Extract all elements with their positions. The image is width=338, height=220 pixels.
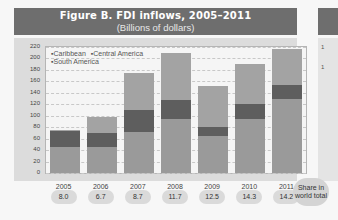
y-tick-label: 120 bbox=[14, 100, 40, 106]
bar-2005 bbox=[50, 129, 80, 173]
bar-segment-caribbean bbox=[272, 49, 302, 86]
x-tick-label: 2009 bbox=[197, 183, 227, 190]
x-tick-label: 2008 bbox=[160, 183, 190, 190]
gridline bbox=[46, 47, 306, 48]
bar-2006 bbox=[87, 117, 117, 173]
gridline bbox=[46, 173, 306, 174]
x-tick-label: 2005 bbox=[49, 183, 79, 190]
chart-subtitle: (Billions of dollars) bbox=[14, 22, 297, 33]
share-value-badge: 8.0 bbox=[51, 190, 77, 204]
share-value-badge: 14.3 bbox=[236, 190, 262, 204]
bar-segment-south-america bbox=[161, 119, 191, 173]
legend-item-central-america: ▪Central America bbox=[91, 50, 143, 58]
bar-segment-south-america bbox=[198, 136, 228, 173]
bar-2008 bbox=[161, 53, 191, 173]
adjacent-figure-title-bar bbox=[318, 8, 338, 35]
bar-segment-south-america bbox=[235, 119, 265, 173]
y-tick-label: 180 bbox=[14, 66, 40, 72]
y-tick-label: 80 bbox=[14, 123, 40, 129]
x-tick-label: 2010 bbox=[234, 183, 264, 190]
bar-segment-central-america bbox=[124, 110, 154, 132]
legend-item-caribbean: ▪Caribbean bbox=[51, 50, 86, 58]
y-tick-label: 140 bbox=[14, 89, 40, 95]
bar-segment-south-america bbox=[272, 99, 302, 173]
bar-segment-caribbean bbox=[124, 73, 154, 110]
bar-segment-central-america bbox=[87, 133, 117, 147]
x-tick-label: 2006 bbox=[86, 183, 116, 190]
bar-segment-central-america bbox=[50, 131, 80, 147]
share-value-badge: 6.7 bbox=[88, 190, 114, 204]
bar-2009 bbox=[198, 86, 228, 173]
bar-segment-caribbean bbox=[198, 86, 228, 127]
x-tick-label: 2007 bbox=[123, 183, 153, 190]
bar-2010 bbox=[235, 64, 265, 173]
y-tick-label: 60 bbox=[14, 135, 40, 141]
share-value-badge: 11.7 bbox=[162, 190, 188, 204]
chart-title-bar: Figure B. FDI inflows, 2005–2011 (Billio… bbox=[14, 8, 297, 35]
bar-segment-central-america bbox=[235, 104, 265, 118]
bar-segment-south-america bbox=[124, 132, 154, 173]
y-tick-label: 100 bbox=[14, 112, 40, 118]
bar-segment-south-america bbox=[87, 147, 117, 173]
share-in-world-total-label: Share in world total bbox=[293, 178, 329, 206]
y-tick-label: 20 bbox=[14, 158, 40, 164]
bar-2011 bbox=[272, 49, 302, 173]
y-tick-label: 200 bbox=[14, 54, 40, 60]
bar-segment-caribbean bbox=[235, 64, 265, 104]
adjacent-tick: 1 bbox=[321, 44, 324, 50]
bar-2007 bbox=[124, 73, 154, 173]
adjacent-tick: 1 bbox=[321, 64, 324, 70]
bar-segment-south-america bbox=[50, 147, 80, 173]
y-tick-label: 160 bbox=[14, 77, 40, 83]
y-tick-label: 0 bbox=[14, 169, 40, 175]
chart-panel: 020406080100120140160180200220 ▪Caribbea… bbox=[14, 38, 297, 181]
plot-area: ▪Caribbean▪Central America ▪South Americ… bbox=[45, 46, 307, 174]
adjacent-figure-panel: 1 1 bbox=[318, 38, 338, 181]
bar-segment-central-america bbox=[161, 100, 191, 119]
bar-segment-caribbean bbox=[161, 53, 191, 100]
y-tick-label: 40 bbox=[14, 146, 40, 152]
bar-segment-caribbean bbox=[87, 117, 117, 132]
share-value-badge: 12.5 bbox=[199, 190, 225, 204]
share-value-badge: 8.7 bbox=[125, 190, 151, 204]
bar-segment-central-america bbox=[272, 85, 302, 99]
bar-segment-caribbean bbox=[50, 130, 80, 132]
bar-segment-central-america bbox=[198, 127, 228, 136]
y-tick-label: 220 bbox=[14, 43, 40, 49]
chart-title: Figure B. FDI inflows, 2005–2011 bbox=[14, 8, 297, 22]
